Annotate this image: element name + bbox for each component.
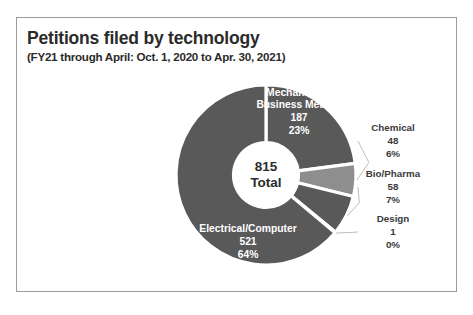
slice-value-chemical: 48 [388,135,399,146]
slice-value-design: 1 [390,226,396,237]
slice-label-mechanical-line1: Mechanical & [266,87,332,98]
donut-chart: 815 Total Mechanical & Business Method 1… [0,0,473,315]
slice-value-mechanical: 187 [290,112,307,123]
slice-label-chemical-line1: Chemical [371,122,415,133]
donut-center-value: 815 [255,159,278,174]
slice-label-biopharma-line1: Bio/Pharma [366,168,421,179]
slice-label-electrical-line1: Electrical/Computer [199,223,296,234]
slice-value-electrical: 521 [239,236,256,247]
slice-label-design-line1: Design [377,213,410,224]
donut-center-caption: Total [250,175,281,190]
slice-percent-mechanical: 23% [289,125,310,136]
slice-value-biopharma: 58 [388,181,399,192]
donut-chart-svg: 815 Total Mechanical & Business Method 1… [0,0,473,315]
slice-label-mechanical-line2: Business Method [256,99,341,110]
slice-label-bio-pharma: Bio/Pharma 58 7% [366,168,421,205]
chart-figure: Petitions filed by technology (FY21 thro… [0,0,473,315]
slice-label-chemical: Chemical 48 6% [371,122,415,159]
slice-percent-chemical: 6% [386,148,400,159]
slice-label-design: Design 1 0% [377,213,410,250]
slice-percent-electrical: 64% [238,249,259,260]
leader-line-design [336,232,358,233]
slice-percent-design: 0% [386,239,400,250]
slice-percent-biopharma: 7% [386,194,400,205]
